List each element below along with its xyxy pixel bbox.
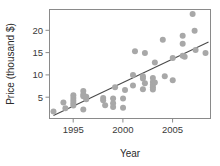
x-tick-label-2000: 2000 [112,124,133,135]
data-point [110,104,116,110]
y-tick-label-20: 20 [32,25,43,36]
y-tick-label-5: 5 [38,92,43,103]
data-point [62,105,68,111]
x-axis-ticks [73,119,172,123]
y-axis-tick-labels: 20 15 10 5 [32,25,43,103]
data-point [142,80,148,86]
data-point [162,73,168,79]
chart-canvas: 20 15 10 5 1995 2000 2005 Year Price (th… [0,0,220,166]
data-point [180,41,186,47]
data-point [152,79,158,85]
data-point [152,59,158,65]
data-point [192,28,198,34]
scatter-plot-figure: 20 15 10 5 1995 2000 2005 Year Price (th… [0,0,220,166]
data-point [120,105,126,111]
y-axis-ticks [46,30,50,97]
y-tick-label-10: 10 [32,69,43,80]
data-point [170,55,176,61]
y-tick-label-15: 15 [32,47,43,58]
regression-line [53,42,208,115]
data-point [83,96,89,102]
data-point [132,48,138,54]
data-point [120,95,126,101]
data-point [130,83,136,89]
data-point [193,47,199,53]
data-point [70,103,76,109]
data-point [203,50,209,56]
data-points-layer [50,11,208,114]
x-tick-label-1995: 1995 [63,124,84,135]
data-point [130,72,136,78]
data-point [170,77,176,83]
data-point [80,107,86,113]
data-point [50,108,56,114]
data-point [60,99,66,105]
x-axis-title: Year [120,148,141,159]
data-point [182,54,188,60]
data-point [140,86,146,92]
data-point [112,84,118,90]
data-point [190,11,196,17]
data-point [160,37,166,43]
y-axis-title: Price (thousand $) [5,23,16,105]
data-point [122,87,128,93]
data-point [142,50,148,56]
data-point [150,87,156,93]
data-point [102,102,108,108]
x-axis-tick-labels: 1995 2000 2005 [63,124,184,135]
data-point [180,33,186,39]
x-tick-label-2005: 2005 [162,124,183,135]
